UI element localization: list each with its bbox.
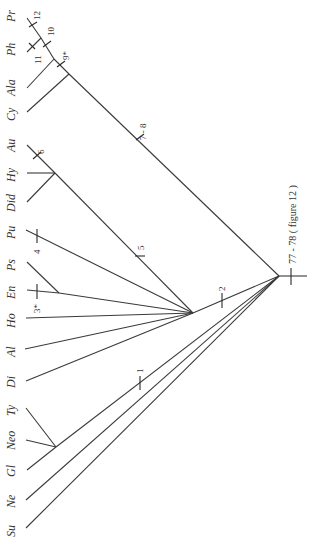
- branch-al: [25, 313, 193, 349]
- taxon-label-ho: Ho: [4, 313, 18, 329]
- branch-au: [27, 145, 55, 173]
- taxon-label-gl: Gl: [4, 464, 18, 477]
- char-label-2: 2: [217, 287, 227, 292]
- branch-cy: [27, 74, 69, 112]
- taxon-label-cy: Cy: [4, 107, 18, 121]
- taxon-label-di: Di: [4, 376, 18, 389]
- taxon-label-pr: Pr: [4, 10, 18, 23]
- taxon-label-pu: Pu: [4, 226, 18, 240]
- clade-main: 2 5 6 4 3*: [25, 145, 279, 381]
- branch-cy-node-to-ala-node: [54, 59, 69, 74]
- root-label: 77 - 78 ( figure 12 ): [287, 185, 299, 264]
- taxon-label-ala: Ala: [4, 79, 18, 97]
- taxon-labels: Pr Ph Ala Cy Au Hy Did Pu Ps En Ho Al Di…: [4, 10, 18, 537]
- branch-ho: [26, 313, 193, 318]
- taxon-label-ne: Ne: [4, 494, 18, 509]
- taxon-label-neo: Neo: [4, 431, 18, 451]
- char-label-5: 5: [136, 245, 146, 250]
- char-label-6: 6: [36, 149, 46, 154]
- char-label-7-8: 7 - 8: [138, 123, 148, 140]
- char-label-4: 4: [32, 249, 42, 254]
- taxon-label-su: Su: [4, 525, 18, 537]
- char-label-3: 3*: [32, 304, 42, 314]
- taxon-label-hy: Hy: [4, 167, 18, 183]
- branch-did: [27, 173, 55, 202]
- taxon-label-did: Did: [4, 193, 18, 213]
- char-label-11: 11: [33, 55, 43, 64]
- taxon-label-en: En: [4, 286, 18, 300]
- char-label-9: 9*: [61, 51, 71, 61]
- branch-ps: [27, 262, 59, 293]
- branch-gl: [27, 447, 56, 470]
- root: 77 - 78 ( figure 12 ): [279, 185, 307, 285]
- branch-root-to-main-node: [193, 276, 279, 313]
- branch-ph: [27, 38, 41, 52]
- taxon-label-au: Au: [4, 139, 18, 153]
- cladogram: 77 - 78 ( figure 12 ) 7 - 8 9* 10 11 12 …: [0, 0, 321, 552]
- taxon-label-al: Al: [4, 346, 18, 358]
- taxon-label-ph: Ph: [4, 43, 18, 57]
- char-label-1: 1: [135, 369, 145, 374]
- branch-pr: [27, 18, 41, 38]
- branch-root-to-cy-node: [69, 74, 279, 276]
- tick-11: [29, 43, 35, 49]
- branch-ne: [26, 276, 279, 500]
- branch-main-to-hy-node: [55, 173, 193, 313]
- branch-di: [26, 313, 193, 381]
- branch-root-to-neo-node: [56, 276, 279, 447]
- branch-en: [27, 290, 59, 293]
- taxon-label-ty: Ty: [4, 404, 18, 416]
- taxon-label-ps: Ps: [4, 259, 18, 272]
- char-label-12: 12: [32, 11, 42, 20]
- clade-cy-pr: 7 - 8 9* 10 11 12: [27, 11, 279, 276]
- char-label-10: 10: [46, 27, 56, 37]
